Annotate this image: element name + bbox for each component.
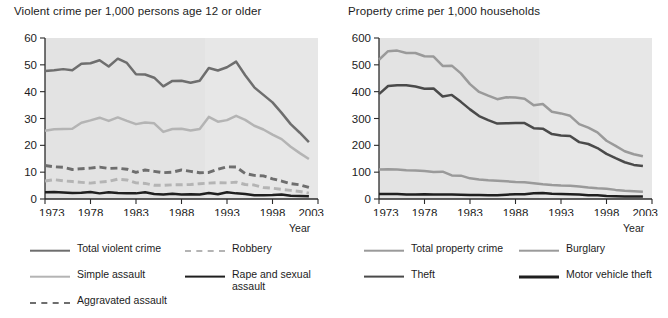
x-tick-label: 1978 [78,207,104,216]
legend-label: Theft [411,269,435,281]
x-tick-label: 1998 [260,207,286,216]
legend-label: Simple assault [77,269,145,281]
x-tick-label: 1983 [457,207,483,216]
y-tick-label: 60 [24,32,37,44]
chart-title-property: Property crime per 1,000 households [348,5,540,17]
legend-item[interactable]: Simple assault [30,269,145,282]
x-tick-label: 1993 [548,207,574,216]
plot-area-violent: 0102030405060197319781983198819931998200… [0,26,334,216]
x-tick-label: 1978 [412,207,438,216]
legend-label: Total property crime [411,243,503,255]
legend-swatch-icon [519,271,559,282]
plot-area-property: 0100200300400500600197319781983198819931… [334,26,668,216]
chart-svg-property: 0100200300400500600197319781983198819931… [334,26,668,216]
legend-label: Aggravated assault [77,295,167,307]
y-tick-label: 10 [24,166,37,178]
panel-violent-crime: Violent crime per 1,000 persons age 12 o… [0,0,334,318]
legend-item[interactable]: Burglary [519,243,605,256]
legend-item[interactable]: Theft [364,269,435,282]
legend-label: Burglary [566,243,605,255]
chart-svg-violent: 0102030405060197319781983198819931998200… [0,26,334,216]
legend-swatch-icon [364,245,404,256]
y-tick-label: 20 [24,139,37,151]
x-tick-label: 1998 [594,207,620,216]
x-axis-label-violent: Year [289,222,310,234]
x-tick-label: 2003 [632,207,658,216]
y-tick-label: 40 [24,86,37,98]
legend-swatch-icon [185,271,225,282]
figure-root: Violent crime per 1,000 persons age 12 o… [0,0,668,318]
y-tick-label: 0 [365,193,371,205]
legend-label: Robbery [232,243,272,255]
y-tick-label: 600 [352,32,371,44]
x-tick-label: 1988 [503,207,529,216]
legend-swatch-icon [364,271,404,282]
legend-label: Rape and sexual assault [232,269,334,292]
legend-property: Total property crimeTheftBurglaryMotor v… [334,243,668,318]
legend-swatch-icon [185,245,225,256]
x-tick-label: 1973 [39,207,65,216]
legend-label: Total violent crime [77,243,161,255]
legend-swatch-icon [30,245,70,256]
y-tick-label: 500 [352,59,371,71]
x-tick-label: 2003 [298,207,324,216]
legend-item[interactable]: Total violent crime [30,243,161,256]
x-tick-label: 1988 [169,207,195,216]
y-tick-label: 200 [352,139,371,151]
y-tick-label: 50 [24,59,37,71]
panel-property-crime: Property crime per 1,000 households 0100… [334,0,668,318]
x-axis-label-property: Year [623,222,644,234]
legend-swatch-icon [519,245,559,256]
x-tick-label: 1973 [373,207,399,216]
y-tick-label: 400 [352,86,371,98]
legend-swatch-icon [30,297,70,308]
legend-item[interactable]: Rape and sexual assault [185,269,334,292]
legend-item[interactable]: Robbery [185,243,272,256]
legend-item[interactable]: Total property crime [364,243,503,256]
legend-label: Motor vehicle theft [566,269,652,281]
legend-violent: Total violent crimeSimple assaultAggrava… [0,243,334,318]
y-tick-label: 30 [24,113,37,125]
legend-swatch-icon [30,271,70,282]
legend-item[interactable]: Motor vehicle theft [519,269,652,282]
y-tick-label: 0 [31,193,37,205]
x-tick-label: 1983 [123,207,149,216]
y-tick-label: 300 [352,113,371,125]
y-tick-label: 100 [352,166,371,178]
chart-title-violent: Violent crime per 1,000 persons age 12 o… [14,5,261,17]
legend-item[interactable]: Aggravated assault [30,295,167,308]
x-tick-label: 1993 [214,207,240,216]
